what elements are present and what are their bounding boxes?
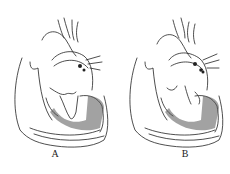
panel-a: A [0, 0, 115, 174]
panel-label-b: B [175, 148, 195, 159]
panel-b: B [115, 0, 230, 174]
panel-label-a: A [45, 148, 65, 159]
heart-illustration-b [115, 0, 230, 174]
